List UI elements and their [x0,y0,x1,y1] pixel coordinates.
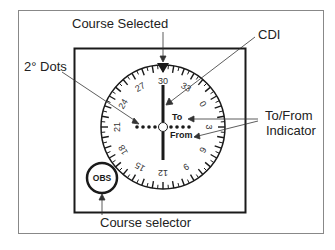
cdi-label: CDI [258,28,280,42]
dots-label: 2° Dots [24,60,67,74]
course-selector-label: Course selector [100,216,191,230]
from-label: From [170,130,193,140]
vor-diagram: 30330369121518212427 To From OBS Co [0,0,335,250]
to-from-label: To/From [265,109,313,123]
center-circle [159,123,168,132]
svg-text:30: 30 [158,76,168,86]
obs-knob[interactable]: OBS [87,163,117,193]
svg-text:OBS: OBS [93,173,112,183]
course-selected-label: Course Selected [72,17,168,31]
svg-text:3: 3 [204,124,214,129]
indicator-label: Indicator [266,124,316,138]
svg-text:12: 12 [158,168,168,178]
svg-text:21: 21 [112,122,122,132]
to-label: To [172,112,183,122]
